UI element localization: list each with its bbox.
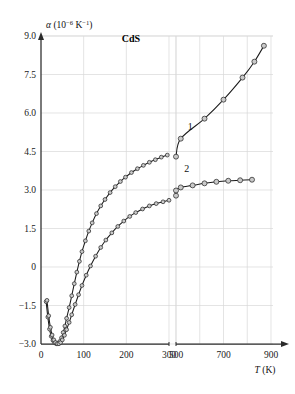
data-point-marker (70, 313, 74, 317)
data-point-marker (80, 284, 84, 288)
x-axis-title: T (K) (255, 365, 276, 376)
data-point-marker (113, 185, 117, 189)
data-point-marker (130, 171, 134, 175)
x-tick-label: 700 (216, 350, 231, 360)
data-point-marker (65, 328, 69, 332)
data-point-marker (141, 207, 145, 211)
data-point-marker (99, 246, 103, 250)
data-point-marker (103, 198, 107, 202)
y-tick-label: 9.0 (24, 31, 36, 41)
data-point-marker (108, 191, 112, 195)
data-point-marker (99, 204, 103, 208)
data-point-marker (174, 188, 179, 193)
data-point-marker (95, 212, 99, 216)
data-point-marker (104, 238, 108, 242)
data-point-marker (250, 177, 255, 182)
data-point-marker (214, 179, 219, 184)
data-point-marker (134, 211, 138, 215)
curve-label-2: 2 (184, 163, 189, 174)
data-point-marker (165, 153, 169, 157)
data-point-marker (60, 338, 64, 342)
data-point-marker (89, 264, 93, 268)
data-point-marker (65, 316, 69, 320)
data-point-marker (84, 273, 88, 277)
data-point-marker (202, 116, 207, 121)
data-point-marker (90, 221, 94, 225)
data-point-marker (83, 239, 87, 243)
data-point-marker (122, 219, 126, 223)
alpha-vs-temperature-chart: 9.07.56.04.53.01.50−1.5−3.00100200300500… (0, 0, 295, 394)
data-point-marker (47, 314, 51, 318)
data-point-marker (67, 321, 71, 325)
data-point-marker (154, 202, 158, 206)
data-point-marker (174, 154, 179, 159)
data-point-marker (75, 270, 79, 274)
sample-label-cds: CdS (122, 33, 141, 44)
data-point-marker (110, 231, 114, 235)
data-point-marker (45, 298, 49, 302)
y-tick-label: 0 (31, 262, 36, 272)
data-point-marker (161, 200, 165, 204)
data-point-marker (116, 225, 120, 229)
data-point-marker (78, 259, 82, 263)
y-tick-label: 3.0 (24, 185, 36, 195)
data-point-marker (50, 333, 54, 337)
data-point-marker (178, 185, 183, 190)
chart-background (0, 0, 295, 394)
data-point-marker (167, 198, 171, 202)
figure-container: 9.07.56.04.53.01.50−1.5−3.00100200300500… (0, 0, 295, 394)
data-point-marker (221, 97, 226, 102)
x-tick-label: 200 (119, 350, 134, 360)
x-tick-label: 900 (264, 350, 279, 360)
y-tick-label: −1.5 (19, 301, 36, 311)
data-point-marker (159, 155, 163, 159)
data-point-marker (226, 178, 231, 183)
y-tick-label: 6.0 (24, 108, 36, 118)
data-point-marker (252, 59, 257, 64)
data-point-marker (136, 167, 140, 171)
data-point-marker (63, 324, 67, 328)
data-point-marker (63, 333, 67, 337)
data-point-marker (118, 180, 122, 184)
data-point-marker (67, 306, 71, 310)
data-point-marker (72, 282, 76, 286)
data-point-marker (48, 325, 52, 329)
y-tick-label: 4.5 (24, 147, 36, 157)
data-point-marker (70, 294, 74, 298)
data-point-marker (153, 158, 157, 162)
data-point-marker (73, 303, 77, 307)
data-point-marker (238, 178, 243, 183)
data-point-marker (147, 160, 151, 164)
data-point-marker (77, 293, 81, 297)
y-tick-label: 7.5 (24, 70, 36, 80)
data-point-marker (142, 163, 146, 167)
y-tick-label: −3.0 (19, 339, 36, 349)
data-point-marker (80, 250, 84, 254)
data-point-marker (190, 183, 195, 188)
curve-label-1: 1 (188, 121, 193, 132)
data-point-marker (87, 229, 91, 233)
x-tick-label: 500 (169, 350, 184, 360)
data-point-marker (240, 75, 245, 80)
data-point-marker (202, 181, 207, 186)
x-tick-label: 0 (39, 350, 44, 360)
data-point-marker (261, 43, 266, 48)
data-point-marker (94, 254, 98, 258)
data-point-marker (178, 136, 183, 141)
data-point-marker (128, 215, 132, 219)
data-point-marker (174, 193, 179, 198)
x-tick-label: 100 (77, 350, 92, 360)
y-tick-label: 1.5 (24, 224, 36, 234)
data-point-marker (124, 175, 128, 179)
data-point-marker (147, 204, 151, 208)
